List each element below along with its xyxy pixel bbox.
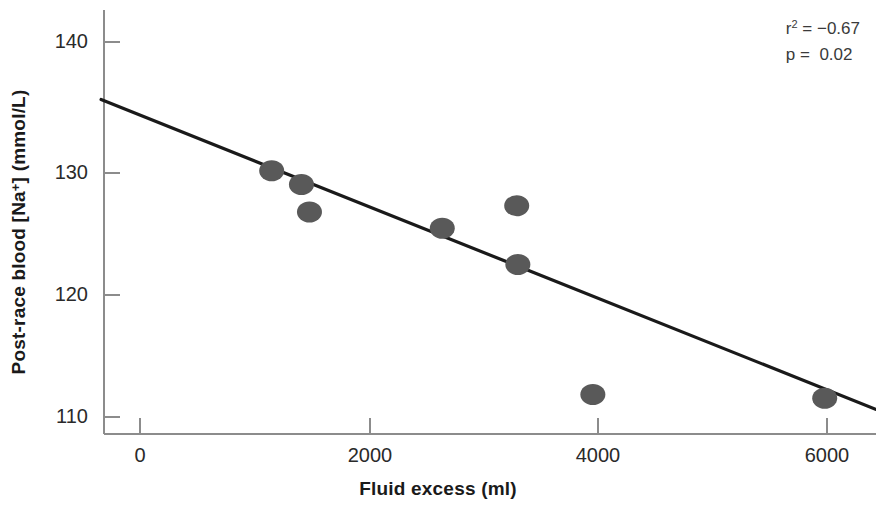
x-axis-title: Fluid excess (ml) bbox=[0, 478, 876, 500]
p-value-number: 0.02 bbox=[819, 45, 852, 64]
regression-trend-line bbox=[101, 100, 876, 410]
data-point bbox=[289, 174, 314, 195]
y-axis-title-prefix: Post-race blood [Na bbox=[8, 191, 29, 374]
x-tick-label-4000: 4000 bbox=[553, 444, 643, 467]
data-point bbox=[812, 388, 837, 409]
data-point bbox=[505, 254, 530, 275]
data-point bbox=[297, 202, 322, 223]
x-tick-label-6000: 6000 bbox=[782, 444, 872, 467]
plot-canvas bbox=[0, 0, 876, 510]
r-squared-row: r2 = −0.67 bbox=[786, 16, 860, 42]
y-tick-label-120: 120 bbox=[28, 283, 88, 306]
data-point bbox=[259, 160, 284, 181]
p-value-label: p bbox=[786, 45, 795, 64]
x-tick-label-2000: 2000 bbox=[325, 444, 415, 467]
p-value-equals: = bbox=[795, 45, 819, 64]
scatter-plot-figure: 140 130 120 110 0 2000 4000 6000 Post-ra… bbox=[0, 0, 876, 510]
data-point bbox=[430, 218, 455, 239]
data-point bbox=[580, 384, 605, 405]
y-axis-title-superscript: + bbox=[8, 183, 23, 191]
x-tick-label-0: 0 bbox=[95, 444, 185, 467]
y-axis-title-suffix: ] (mmol/L) bbox=[8, 90, 29, 184]
y-tick-label-140: 140 bbox=[28, 30, 88, 53]
y-tick-label-130: 130 bbox=[28, 161, 88, 184]
y-tick-label-110: 110 bbox=[28, 405, 88, 428]
p-value-row: p = 0.02 bbox=[786, 42, 860, 68]
r-squared-value: −0.67 bbox=[817, 19, 860, 38]
statistics-annotation: r2 = −0.67 p = 0.02 bbox=[786, 16, 860, 67]
axes-group bbox=[104, 10, 876, 434]
y-axis-title: Post-race blood [Na+] (mmol/L) bbox=[8, 32, 30, 432]
r-squared-equals: = bbox=[798, 19, 817, 38]
data-point bbox=[504, 195, 529, 216]
